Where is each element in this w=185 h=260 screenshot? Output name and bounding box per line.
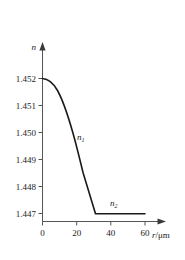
y-tick-label: 1.448 [16, 182, 37, 192]
x-tick-label: 40 [106, 228, 116, 238]
arrow-up-icon [39, 42, 45, 51]
x-axis-title: r/μm [152, 230, 170, 240]
x-tick-label: 20 [72, 228, 82, 238]
core-index-subscript: 1 [82, 137, 85, 143]
refractive-index-curve [43, 79, 146, 214]
x-axis-tick-labels: 0 20 40 60 [40, 228, 150, 238]
x-tick-label: 60 [141, 228, 151, 238]
x-tick-label: 0 [40, 228, 45, 238]
y-axis-tick-labels: 1.452 1.451 1.450 1.449 1.448 1.447 [16, 74, 37, 219]
y-tick-label: 1.452 [16, 74, 36, 84]
y-tick-label: 1.449 [16, 155, 37, 165]
x-axis [43, 218, 167, 224]
x-axis-ticks [43, 222, 146, 226]
cladding-index-label: n2 [110, 198, 118, 209]
y-tick-label: 1.451 [16, 101, 36, 111]
cladding-index-subscript: 2 [115, 203, 118, 209]
y-tick-label: 1.447 [16, 209, 37, 219]
arrow-right-icon [158, 218, 167, 224]
y-axis [39, 42, 45, 222]
y-axis-title: n [32, 42, 37, 52]
refractive-index-profile-chart: 1.452 1.451 1.450 1.449 1.448 1.447 0 20… [0, 0, 185, 260]
figure-container: 1.452 1.451 1.450 1.449 1.448 1.447 0 20… [0, 0, 185, 260]
x-axis-title-unit-symbol: μm [158, 230, 170, 240]
core-index-label: n1 [77, 132, 85, 143]
y-axis-ticks [39, 79, 43, 214]
y-tick-label: 1.450 [16, 128, 37, 138]
